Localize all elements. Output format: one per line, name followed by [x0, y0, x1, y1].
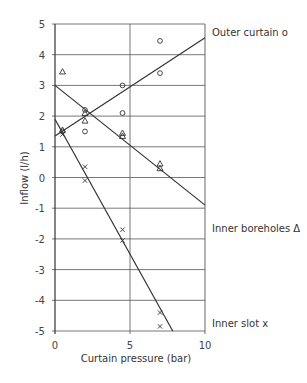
- series-label-inner-boreholes: Inner boreholes Δ: [212, 223, 300, 234]
- x-tick-labels: 0510: [52, 340, 212, 351]
- triangle-marker-icon: [82, 118, 88, 123]
- y-tick-label: 3: [39, 80, 45, 91]
- series-label-outer-curtain: Outer curtain o: [212, 27, 288, 38]
- circle-marker-icon: [158, 38, 163, 43]
- grid-lines: [52, 24, 205, 334]
- y-tick-label: -5: [35, 326, 45, 337]
- y-tick-label: -4: [35, 295, 45, 306]
- y-tick-label: -3: [35, 265, 45, 276]
- cross-marker-icon: [83, 165, 87, 169]
- circle-marker-icon: [83, 129, 88, 134]
- circle-marker-icon: [120, 111, 125, 116]
- x-tick-label: 10: [199, 340, 212, 351]
- y-tick-label: 5: [39, 19, 45, 30]
- fit-line: [55, 119, 173, 331]
- cross-marker-icon: [83, 178, 87, 182]
- series-label-inner-slot: Inner slot x: [212, 318, 268, 329]
- circle-marker-icon: [158, 71, 163, 76]
- y-tick-labels: 543210-1-2-3-4-5: [35, 19, 45, 337]
- y-tick-label: -1: [35, 203, 45, 214]
- y-tick-label: 4: [39, 50, 45, 61]
- y-axis-title: Inflow (l/h): [19, 151, 30, 204]
- triangle-marker-icon: [60, 69, 66, 74]
- chart: 543210-1-2-3-4-5 0510 Inflow (l/h) Curta…: [0, 0, 307, 383]
- cross-marker-icon: [158, 324, 162, 328]
- y-tick-label: 0: [39, 173, 45, 184]
- cross-marker-icon: [120, 227, 124, 231]
- x-axis-title: Curtain pressure (bar): [81, 353, 192, 364]
- y-tick-label: -2: [35, 234, 45, 245]
- x-tick-label: 5: [127, 340, 133, 351]
- cross-marker-icon: [158, 310, 162, 314]
- y-tick-label: 1: [39, 142, 45, 153]
- x-tick-label: 0: [52, 340, 58, 351]
- y-tick-label: 2: [39, 111, 45, 122]
